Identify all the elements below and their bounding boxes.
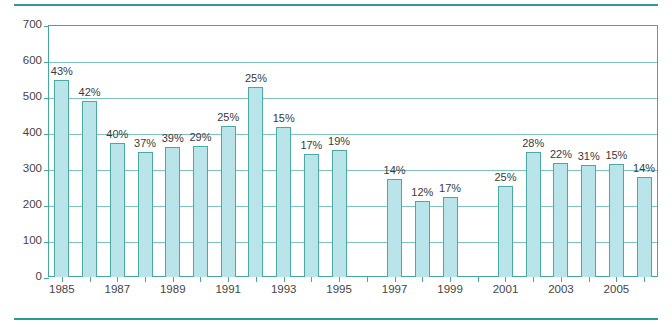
bar[interactable] — [387, 179, 402, 277]
y-axis-tick-label: 600 — [10, 55, 42, 67]
bar-value-label: 15% — [273, 113, 295, 124]
x-axis-tick — [117, 277, 118, 282]
bar-value-label: 14% — [633, 163, 655, 174]
bar[interactable] — [304, 154, 319, 277]
x-axis-tick-label: 2005 — [604, 283, 630, 295]
bar-value-label: 19% — [328, 136, 350, 147]
bar[interactable] — [165, 147, 180, 277]
bar-value-label: 43% — [51, 66, 73, 77]
x-axis-tick — [228, 277, 229, 282]
x-axis-tick — [589, 277, 590, 282]
bar-value-label: 28% — [522, 138, 544, 149]
bar[interactable] — [332, 150, 347, 277]
bar[interactable] — [637, 177, 652, 277]
bar-chart-figure: 0100200300400500600700 43%42%40%37%39%29… — [0, 0, 672, 327]
bar[interactable] — [276, 127, 291, 277]
bar[interactable] — [221, 126, 236, 277]
x-axis-tick-label: 1985 — [49, 283, 75, 295]
bar[interactable] — [526, 152, 541, 277]
bar-slot: 43% — [48, 25, 76, 277]
x-axis-tick — [339, 277, 340, 282]
bar-slot: 14% — [381, 25, 409, 277]
bar-value-label: 17% — [300, 140, 322, 151]
bar[interactable] — [498, 186, 513, 277]
bar-slot: 25% — [242, 25, 270, 277]
bar-value-label: 14% — [384, 165, 406, 176]
x-axis-tick — [367, 277, 368, 282]
x-axis-tick — [422, 277, 423, 282]
bar-slot: 40% — [103, 25, 131, 277]
y-axis-tick-label: 0 — [10, 271, 42, 283]
bar-slot: 15% — [270, 25, 298, 277]
bar-value-label: 37% — [134, 138, 156, 149]
bar-slot: 29% — [187, 25, 215, 277]
bar-slot: 25% — [492, 25, 520, 277]
x-axis-tick — [173, 277, 174, 282]
x-axis-tick — [62, 277, 63, 282]
y-axis-tick-label: 700 — [10, 19, 42, 31]
bar-slot: 17% — [436, 25, 464, 277]
x-axis-tick-label: 1993 — [271, 283, 297, 295]
bar-slot: 15% — [603, 25, 631, 277]
x-axis-tick-label: 1995 — [326, 283, 352, 295]
x-axis-tick — [478, 277, 479, 282]
bar-value-label: 42% — [79, 87, 101, 98]
y-axis-tick — [44, 278, 49, 279]
bar[interactable] — [609, 164, 624, 277]
bottom-divider-rule — [14, 318, 658, 320]
bar[interactable] — [82, 101, 97, 277]
bar-slot: 39% — [159, 25, 187, 277]
bar[interactable] — [138, 152, 153, 277]
y-axis-tick-label: 300 — [10, 163, 42, 175]
bar-value-label: 39% — [162, 133, 184, 144]
bar[interactable] — [581, 165, 596, 277]
x-axis-tick — [616, 277, 617, 282]
bars-container: 43%42%40%37%39%29%25%25%15%17%19%14%12%1… — [48, 25, 658, 277]
x-axis-tick-label: 1991 — [215, 283, 241, 295]
x-axis-tick — [450, 277, 451, 282]
x-axis-tick — [90, 277, 91, 282]
bar-slot: 25% — [214, 25, 242, 277]
bar-value-label: 22% — [550, 149, 572, 160]
bar-value-label: 25% — [245, 73, 267, 84]
bar-value-label: 15% — [605, 150, 627, 161]
bar-slot — [464, 25, 492, 277]
x-axis-tick-label: 2001 — [493, 283, 519, 295]
y-axis-tick-label: 400 — [10, 127, 42, 139]
bar-slot: 37% — [131, 25, 159, 277]
bar-value-label: 25% — [494, 172, 516, 183]
bar[interactable] — [110, 143, 125, 277]
bar-value-label: 12% — [411, 187, 433, 198]
bar-slot — [353, 25, 381, 277]
y-axis-labels: 0100200300400500600700 — [8, 25, 42, 277]
bar-slot: 19% — [325, 25, 353, 277]
bar[interactable] — [415, 201, 430, 277]
x-axis-tick — [200, 277, 201, 282]
bar-slot: 28% — [519, 25, 547, 277]
top-divider-rule — [14, 4, 658, 6]
bar-slot: 22% — [547, 25, 575, 277]
bar-slot: 42% — [76, 25, 104, 277]
y-axis-tick-label: 200 — [10, 199, 42, 211]
bar[interactable] — [248, 87, 263, 277]
bar[interactable] — [443, 197, 458, 277]
x-axis-tick — [395, 277, 396, 282]
x-axis-tick — [644, 277, 645, 282]
bar[interactable] — [54, 80, 69, 277]
bar-value-label: 29% — [189, 132, 211, 143]
x-axis-tick — [145, 277, 146, 282]
x-axis-tick — [311, 277, 312, 282]
x-axis-tick-label: 1999 — [437, 283, 463, 295]
bar-value-label: 40% — [106, 129, 128, 140]
x-axis-tick — [256, 277, 257, 282]
y-axis-tick-label: 500 — [10, 91, 42, 103]
bar[interactable] — [553, 163, 568, 277]
x-axis-tick — [284, 277, 285, 282]
x-axis-tick — [533, 277, 534, 282]
bar-slot: 12% — [408, 25, 436, 277]
bar[interactable] — [193, 146, 208, 277]
bar-slot: 17% — [298, 25, 326, 277]
bar-slot: 14% — [630, 25, 658, 277]
bar-value-label: 17% — [439, 183, 461, 194]
x-axis-tick — [561, 277, 562, 282]
